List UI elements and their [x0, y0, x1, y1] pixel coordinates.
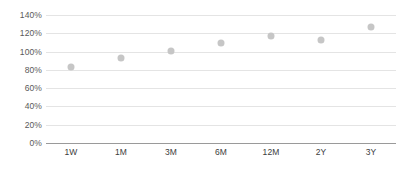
- gridline: [46, 33, 396, 34]
- gridline: [46, 125, 396, 126]
- y-axis-tick-label: 140%: [0, 11, 42, 20]
- x-axis-tick-label: 12M: [263, 148, 280, 157]
- data-point[interactable]: [168, 47, 175, 54]
- x-axis-tick-label: 2Y: [316, 148, 327, 157]
- gridline: [46, 15, 396, 16]
- data-point[interactable]: [68, 64, 75, 71]
- data-point[interactable]: [118, 54, 125, 61]
- x-axis-tick-label: 3Y: [366, 148, 377, 157]
- data-point[interactable]: [318, 36, 325, 43]
- gridline: [46, 70, 396, 71]
- data-point[interactable]: [218, 40, 225, 47]
- y-axis-tick-label: 100%: [0, 48, 42, 57]
- y-axis-tick-label: 120%: [0, 29, 42, 38]
- plot-area: [46, 15, 396, 143]
- y-axis-tick-label: 0%: [0, 139, 42, 148]
- y-axis-tick-label: 60%: [0, 84, 42, 93]
- gridline: [46, 88, 396, 89]
- x-axis-tick-label: 1W: [65, 148, 78, 157]
- x-axis-tick-label: 1M: [115, 148, 127, 157]
- scatter-chart: 0%20%40%60%80%100%120%140% 1W1M3M6M12M2Y…: [0, 0, 406, 172]
- x-axis-tick-label: 3M: [165, 148, 177, 157]
- y-axis-tick-labels: 0%20%40%60%80%100%120%140%: [0, 15, 42, 143]
- gridline: [46, 106, 396, 107]
- x-axis-line: [46, 143, 396, 144]
- y-axis-tick-label: 20%: [0, 121, 42, 130]
- y-axis-tick-label: 40%: [0, 102, 42, 111]
- gridline: [46, 52, 396, 53]
- data-point[interactable]: [368, 23, 375, 30]
- x-axis-tick-label: 6M: [215, 148, 227, 157]
- y-axis-tick-label: 80%: [0, 66, 42, 75]
- data-point[interactable]: [268, 33, 275, 40]
- x-axis-tick-labels: 1W1M3M6M12M2Y3Y: [46, 148, 396, 164]
